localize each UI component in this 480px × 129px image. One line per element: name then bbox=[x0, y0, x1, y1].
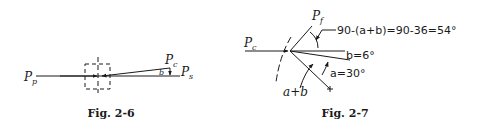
angle-arc-a bbox=[322, 62, 328, 75]
diagram-canvas: Pp Pc Ps b Fig. 2-6 Pc Pf 90-(a+b)=90-36… bbox=[0, 0, 480, 129]
label-pf: Pf bbox=[311, 9, 325, 25]
caption-fig-2-6: Fig. 2-6 bbox=[87, 107, 135, 120]
label-equation: 90-(a+b)=90-36=54° bbox=[337, 24, 456, 37]
label-angle-a: a=30° bbox=[330, 67, 365, 80]
dashed-arc bbox=[276, 37, 291, 82]
label-angle-b: b bbox=[159, 68, 164, 77]
angle-arc-54 bbox=[310, 32, 318, 48]
caption-fig-2-7: Fig. 2-7 bbox=[321, 107, 368, 120]
label-pc: Pc bbox=[243, 36, 257, 52]
label-pc: Pc bbox=[164, 53, 178, 69]
label-ps: Ps bbox=[180, 65, 193, 81]
label-angle-b: b=6° bbox=[346, 49, 375, 62]
label-a-plus-b: a+b bbox=[283, 85, 308, 99]
line-pf bbox=[290, 26, 312, 51]
label-pp: Pp bbox=[23, 70, 37, 86]
figure-2-7: Pc Pf 90-(a+b)=90-36=54° b=6° a=30° a+b … bbox=[243, 9, 456, 120]
figure-2-6: Pp Pc Ps b Fig. 2-6 bbox=[23, 53, 193, 120]
line-a-30deg bbox=[290, 51, 330, 89]
leader-arrow-equation bbox=[316, 30, 322, 40]
line-b-6deg bbox=[290, 51, 350, 60]
